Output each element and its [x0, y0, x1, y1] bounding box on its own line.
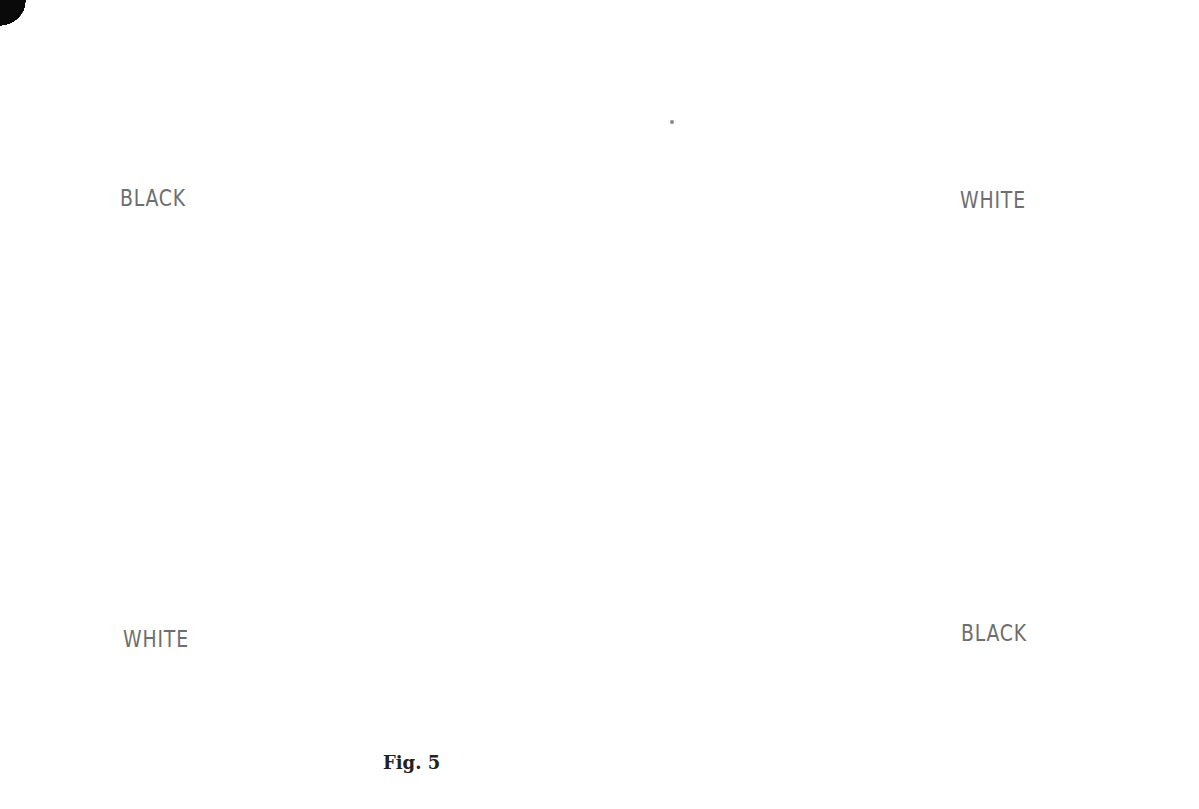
side-labels: BLACK WHITE WHITE BLACK [120, 184, 1027, 652]
side-label-top-right: WHITE [960, 186, 1026, 213]
side-label-bottom-left: WHITE [123, 625, 189, 652]
hex-board-diagram: ABCDEFGHIKL11109876543234567891011BCDEFG… [0, 0, 1199, 809]
side-label-bottom-right: BLACK [961, 619, 1027, 646]
figure-caption: Fig. 5 [383, 752, 440, 773]
stones: 4544464342484161646257595860515553565254… [0, 0, 24, 24]
side-label-top-left: BLACK [120, 184, 186, 211]
black-stone-icon [0, 0, 24, 24]
print-speck [670, 120, 674, 124]
stone-black-L1 [0, 0, 24, 24]
